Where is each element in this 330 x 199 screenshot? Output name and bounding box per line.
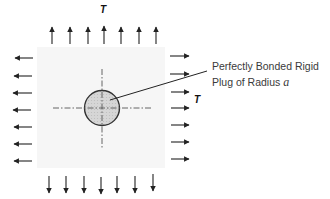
bottom-tension-arrows: [49, 174, 153, 194]
radius-symbol: a: [283, 75, 289, 89]
left-tension-arrows: [13, 58, 33, 161]
right-load-label: T: [194, 94, 200, 105]
plug-label-prefix: Plug of Radius: [212, 76, 283, 88]
plug-label-line2: Plug of Radius a: [212, 76, 289, 88]
plug-label-line1: Perfectly Bonded Rigid: [212, 60, 319, 72]
diagram-canvas: [0, 0, 330, 199]
top-tension-arrows: [52, 26, 156, 44]
top-load-label: T: [100, 4, 106, 15]
right-tension-arrows: [170, 56, 189, 159]
